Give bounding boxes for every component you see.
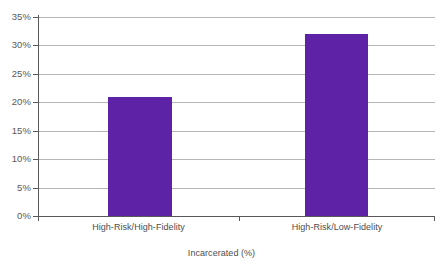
y-tick-label-30: 30% xyxy=(0,40,31,50)
x-category-label-2: High-Risk/Low-Fidelity xyxy=(239,222,435,233)
y-tick-label-35: 35% xyxy=(0,12,31,22)
gridline-5 xyxy=(38,188,435,189)
y-tick-label-15: 15% xyxy=(0,126,31,136)
x-tick-end xyxy=(434,216,435,221)
bar-high-risk-low-fidelity xyxy=(305,34,368,216)
plot-area xyxy=(38,17,435,216)
x-axis-title: Incarcerated (%) xyxy=(0,248,443,259)
gridline-10 xyxy=(38,159,435,160)
gridline-15 xyxy=(38,131,435,132)
x-tick-start xyxy=(38,216,39,221)
y-tick-20 xyxy=(33,102,38,103)
y-tick-15 xyxy=(33,131,38,132)
bar-chart: 35% 30% 25% 20% 15% 10% 5% 0% High-Risk/… xyxy=(0,0,443,270)
bar-high-risk-high-fidelity xyxy=(108,97,172,216)
x-axis-line xyxy=(38,216,435,217)
gridline-25 xyxy=(38,74,435,75)
gridline-30 xyxy=(38,45,435,46)
gridline-20 xyxy=(38,102,435,103)
y-tick-label-5: 5% xyxy=(0,183,31,193)
y-tick-30 xyxy=(33,45,38,46)
y-tick-label-25: 25% xyxy=(0,69,31,79)
y-tick-10 xyxy=(33,159,38,160)
y-tick-25 xyxy=(33,74,38,75)
x-category-label-1: High-Risk/High-Fidelity xyxy=(38,222,239,233)
y-tick-label-20: 20% xyxy=(0,97,31,107)
gridline-35 xyxy=(38,17,435,18)
y-tick-5 xyxy=(33,188,38,189)
y-tick-label-0: 0% xyxy=(0,211,31,221)
x-tick-middle xyxy=(239,216,240,221)
y-axis-line xyxy=(38,15,39,217)
y-tick-label-10: 10% xyxy=(0,154,31,164)
y-tick-35 xyxy=(33,17,38,18)
